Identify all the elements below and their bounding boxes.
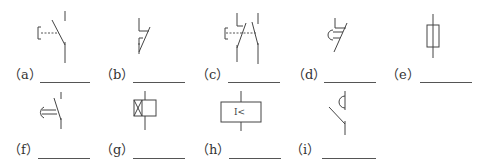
answer-blank-c[interactable] bbox=[228, 82, 280, 83]
symbol-h-text: I< bbox=[234, 107, 245, 117]
symbol-i-delay-contact bbox=[329, 91, 345, 135]
symbol-c-compound-pushbutton bbox=[225, 13, 258, 64]
label-e: （e） bbox=[386, 68, 420, 82]
symbol-e-fuse bbox=[427, 14, 439, 58]
symbol-a-pushbutton-switch bbox=[38, 11, 65, 63]
label-a: （a） bbox=[8, 68, 42, 82]
answer-blank-a[interactable] bbox=[40, 82, 90, 83]
label-h: （h） bbox=[196, 143, 230, 157]
answer-blank-g[interactable] bbox=[133, 158, 185, 159]
answer-blank-i[interactable] bbox=[322, 158, 376, 159]
answer-blank-b[interactable] bbox=[133, 82, 185, 83]
label-f: （f） bbox=[8, 143, 39, 157]
answer-blank-d[interactable] bbox=[324, 82, 376, 83]
answer-blank-f[interactable] bbox=[38, 158, 90, 159]
symbol-g-relay-coil bbox=[134, 91, 156, 130]
answer-blank-e[interactable] bbox=[420, 82, 472, 83]
label-b: （b） bbox=[100, 68, 134, 82]
symbol-d-delay-break-contact bbox=[328, 18, 347, 52]
label-c: （c） bbox=[196, 68, 229, 82]
symbol-b-nc-contact bbox=[139, 18, 150, 54]
label-g: （g） bbox=[100, 143, 134, 157]
label-i: （i） bbox=[290, 143, 320, 157]
symbol-f-delay-make-contact bbox=[40, 92, 61, 129]
answer-blank-h[interactable] bbox=[229, 158, 281, 159]
symbol-h-undercurrent-relay: I< bbox=[221, 91, 261, 131]
label-d: （d） bbox=[292, 68, 326, 82]
